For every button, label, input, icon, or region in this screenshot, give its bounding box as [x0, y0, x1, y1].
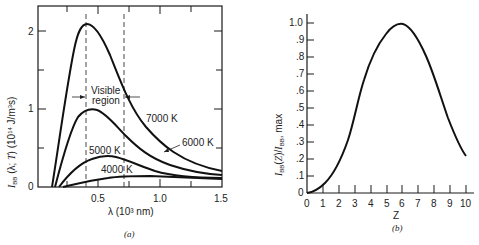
b-ytick-0.8: .8 — [296, 51, 305, 62]
b-ytick-0.4: .4 — [296, 119, 305, 130]
panel-a: Visible region 7000 K 6000 K 5000 K 4000… — [6, 6, 228, 239]
b-ytick-labels: 0 .1 .2 .3 .4 .5 .6 .7 .8 .9 1.0 — [289, 17, 305, 198]
a-y-axis-label: IBB (λ; T) (1014 J/m3s) — [6, 97, 18, 189]
a-xtick-1.5: 1.5 — [214, 193, 228, 204]
a-caption: (a) — [124, 229, 135, 239]
visible-label-2: region — [92, 95, 120, 106]
b-y-ticks — [307, 23, 314, 176]
b-ytick-0: 0 — [298, 187, 304, 198]
a-xtick-1.0: 1.0 — [153, 193, 167, 204]
b-ytick-0.6: .6 — [296, 85, 305, 96]
curve-4000k — [63, 176, 222, 187]
b-ytick-0.9: .9 — [296, 34, 305, 45]
label-7000k: 7000 K — [146, 113, 178, 124]
a-curves — [52, 24, 222, 187]
b-ytick-0.2: .2 — [296, 153, 305, 164]
curve-7000k — [52, 24, 222, 187]
b-xtick-6: 6 — [399, 198, 405, 209]
b-xtick-10: 10 — [460, 198, 472, 209]
b-xtick-1: 1 — [320, 198, 326, 209]
b-ytick-0.3: .3 — [296, 136, 305, 147]
b-xtick-8: 8 — [431, 198, 437, 209]
b-xtick-5: 5 — [384, 198, 390, 209]
b-x-ticks — [323, 185, 466, 193]
a-ytick-1: 1 — [28, 103, 34, 114]
panel-b: 0 .1 .2 .3 .4 .5 .6 .7 .8 .9 1.0 0 1 2 3… — [273, 14, 474, 233]
b-xtick-3: 3 — [352, 198, 358, 209]
label-4000k: 4000 K — [101, 164, 133, 175]
b-xtick-4: 4 — [368, 198, 374, 209]
label-6000k: 6000 K — [182, 137, 214, 148]
label-5000k: 5000 K — [89, 145, 121, 156]
figure: Visible region 7000 K 6000 K 5000 K 4000… — [0, 0, 479, 245]
b-xtick-labels: 0 1 2 3 4 5 6 7 8 9 10 — [304, 198, 472, 209]
b-xtick-0: 0 — [304, 198, 310, 209]
b-ytick-1.0: 1.0 — [289, 17, 303, 28]
b-x-axis-label: Z — [393, 210, 399, 221]
b-xtick-2: 2 — [336, 198, 342, 209]
a-ytick-0: 0 — [28, 181, 34, 192]
b-caption: (b) — [392, 223, 403, 233]
a-xtick-0.5: 0.5 — [91, 193, 105, 204]
arrow-left-head-icon — [80, 95, 85, 99]
b-y-axis-label: IBB(Z)/IBB, max — [273, 114, 285, 177]
b-ytick-0.5: .5 — [296, 102, 305, 113]
b-xtick-9: 9 — [447, 198, 453, 209]
b-ytick-0.1: .1 — [296, 170, 305, 181]
curve-normalized — [307, 24, 466, 193]
b-ytick-0.7: .7 — [296, 68, 305, 79]
a-ytick-2: 2 — [28, 26, 34, 37]
b-xtick-7: 7 — [415, 198, 421, 209]
a-x-axis-label: λ (10³ nm) — [108, 206, 154, 217]
